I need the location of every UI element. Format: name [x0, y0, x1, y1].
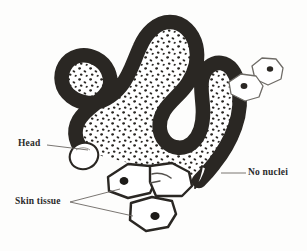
label-head: Head: [18, 139, 40, 149]
skin-cell-bottom-nucleus: [150, 212, 159, 220]
skin-cell-left-nucleus: [120, 177, 129, 185]
free-cell-lower-nucleus: [241, 83, 248, 89]
leader-line-skin-tissue-lower: [70, 202, 133, 216]
diagram-canvas: [0, 0, 307, 251]
label-skin-tissue: Skin tissue: [15, 197, 61, 207]
skin-tissue-cells-group: [108, 163, 192, 231]
label-no-nuclei: No nuclei: [248, 168, 288, 178]
figure-root: Head Skin tissue No nuclei: [0, 0, 307, 251]
leader-line-skin-tissue-upper: [70, 189, 120, 202]
free-cell-upper-nucleus: [267, 66, 273, 72]
